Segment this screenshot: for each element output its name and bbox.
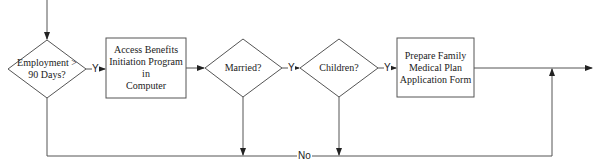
decision-employment-line2: 90 Days?	[28, 69, 66, 81]
process-prepare-form-line3: Application Form	[400, 74, 471, 86]
process-prepare-form: Prepare Family Medical Plan Application …	[397, 48, 474, 88]
process-access-benefits-line2: Initiation Program in	[106, 56, 186, 80]
edge-label-yes-children: Y	[384, 63, 391, 73]
process-access-benefits-line3: Computer	[126, 80, 166, 92]
edge-label-yes-married: Y	[288, 63, 295, 73]
process-prepare-form-line1: Prepare Family	[405, 50, 466, 62]
decision-married: Married?	[213, 61, 273, 75]
decision-children: Children?	[307, 61, 371, 75]
process-prepare-form-line2: Medical Plan	[409, 62, 462, 74]
process-access-benefits: Access Benefits Initiation Program in Co…	[106, 48, 186, 88]
decision-employment-line1: Employment >	[17, 57, 77, 69]
process-access-benefits-line1: Access Benefits	[114, 44, 178, 56]
flowchart-canvas	[0, 0, 604, 165]
decision-employment: Employment > 90 Days?	[14, 56, 80, 82]
edge-label-no: No	[297, 151, 312, 161]
edge-label-yes-employment: Y	[92, 64, 99, 74]
